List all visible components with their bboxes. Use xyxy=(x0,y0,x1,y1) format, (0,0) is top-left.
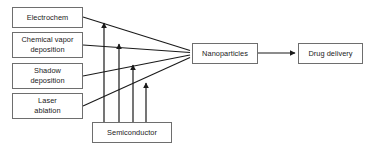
node-semiconductor[interactable]: Semiconductor xyxy=(92,122,172,143)
node-chemical-vapor-deposition-label: Chemical vapor deposition xyxy=(21,35,73,55)
node-nanoparticles-label: Nanoparticles xyxy=(202,49,248,59)
node-laser-ablation-label: Laser ablation xyxy=(34,96,60,116)
node-semiconductor-label: Semiconductor xyxy=(107,128,157,138)
edge-laser-ablation-to-nanoparticles xyxy=(83,58,190,107)
node-drug-delivery[interactable]: Drug delivery xyxy=(298,43,363,64)
node-electrochem-label: Electrochem xyxy=(27,13,69,23)
node-shadow-deposition-label: Shadow deposition xyxy=(30,66,64,86)
node-shadow-deposition[interactable]: Shadow deposition xyxy=(12,63,83,89)
flowchart-diagram: Electrochem Chemical vapor deposition Sh… xyxy=(0,0,374,151)
node-nanoparticles[interactable]: Nanoparticles xyxy=(192,43,258,64)
node-drug-delivery-label: Drug delivery xyxy=(308,49,352,59)
node-electrochem[interactable]: Electrochem xyxy=(12,7,83,28)
node-laser-ablation[interactable]: Laser ablation xyxy=(12,93,83,119)
edge-cvd-to-nanoparticles xyxy=(83,45,190,53)
node-chemical-vapor-deposition[interactable]: Chemical vapor deposition xyxy=(12,32,83,58)
edge-shadow-deposition-to-nanoparticles xyxy=(83,55,190,76)
edge-electrochem-to-nanoparticles xyxy=(83,17,190,51)
